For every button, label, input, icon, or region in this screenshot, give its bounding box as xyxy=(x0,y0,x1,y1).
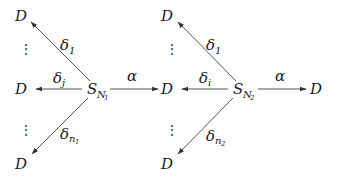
svg-text:i: i xyxy=(208,77,211,88)
svg-text:δ: δ xyxy=(60,125,69,143)
ellipsis-lower-2: ⋮ xyxy=(165,122,179,138)
label-delta-j-block-1: δ j xyxy=(53,69,65,88)
svg-text:1: 1 xyxy=(104,94,108,102)
absorbing-state-bottom-2: D xyxy=(160,155,173,173)
label-alpha-block-1: α xyxy=(127,67,137,85)
svg-text:δ: δ xyxy=(206,127,215,145)
svg-text:S: S xyxy=(233,80,243,98)
absorbing-state-bottom-1: D xyxy=(14,155,27,173)
source-state-2: S N 2 xyxy=(233,80,255,102)
ellipsis-upper-1: ⋮ xyxy=(19,41,33,57)
svg-text:S: S xyxy=(87,80,97,98)
svg-text:δ: δ xyxy=(206,36,215,54)
svg-text:1: 1 xyxy=(69,45,75,56)
block-1: D ⋮ D ⋮ D S N 1 δ 1 δ j δ n 1 α xyxy=(14,7,158,173)
ellipsis-lower-1: ⋮ xyxy=(19,122,33,138)
label-delta-1-block-2: δ 1 xyxy=(206,36,221,56)
label-delta-n1-block-1: δ n 1 xyxy=(60,125,79,146)
svg-text:δ: δ xyxy=(60,36,69,54)
absorbing-state-top-2: D xyxy=(160,7,173,25)
block-2: D ⋮ D ⋮ D S N 2 δ 1 δ i δ n 2 α D xyxy=(160,7,322,173)
absorbing-state-middle-2: D xyxy=(160,80,173,98)
svg-text:δ: δ xyxy=(199,69,208,87)
markov-chain-diagram: D ⋮ D ⋮ D S N 1 δ 1 δ j δ n 1 α D xyxy=(0,0,337,179)
source-state-1: S N 1 xyxy=(87,80,108,102)
svg-text:2: 2 xyxy=(249,94,255,102)
label-delta-i-block-2: δ i xyxy=(199,69,211,88)
svg-text:2: 2 xyxy=(220,140,226,148)
label-delta-1-block-1: δ 1 xyxy=(60,36,75,56)
label-alpha-block-2: α xyxy=(275,67,285,85)
absorbing-state-middle-1: D xyxy=(14,80,27,98)
svg-text:1: 1 xyxy=(215,45,221,56)
label-delta-n2-block-2: δ n 2 xyxy=(206,127,226,148)
absorbing-state-top-1: D xyxy=(14,7,27,25)
svg-text:δ: δ xyxy=(53,69,62,87)
ellipsis-upper-2: ⋮ xyxy=(165,41,179,57)
svg-text:1: 1 xyxy=(75,138,79,146)
absorbing-state-right-2: D xyxy=(309,80,322,98)
